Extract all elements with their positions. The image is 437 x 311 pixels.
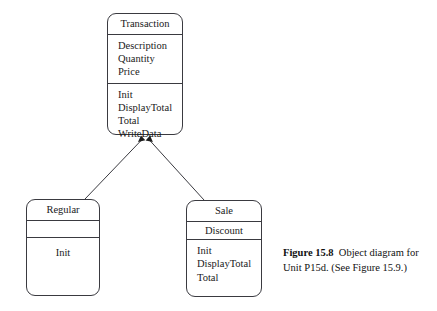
class-name-sale: Sale: [187, 201, 261, 222]
class-name-regular: Regular: [27, 200, 99, 221]
inheritance-line-regular: [85, 139, 143, 199]
class-box-transaction[interactable]: Transaction Description Quantity Price I…: [107, 13, 183, 135]
figure-canvas: Transaction Description Quantity Price I…: [0, 0, 437, 311]
class-box-sale[interactable]: Sale Discount Init DisplayTotal Total: [186, 200, 262, 297]
figure-caption: Figure 15.8 Object diagram for Unit P15d…: [283, 246, 431, 275]
class-box-regular[interactable]: Regular Init: [26, 199, 100, 296]
class-name-transaction: Transaction: [108, 14, 182, 35]
attributes-regular: [27, 221, 99, 238]
operations-transaction: Init DisplayTotal Total WriteData: [108, 84, 182, 144]
operations-regular: Init: [27, 238, 99, 262]
attributes-sale: Discount: [187, 222, 261, 240]
attributes-transaction: Description Quantity Price: [108, 35, 182, 84]
figure-number: Figure 15.8: [283, 247, 334, 258]
inheritance-line-sale: [149, 139, 205, 200]
operations-sale: Init DisplayTotal Total: [187, 240, 261, 287]
